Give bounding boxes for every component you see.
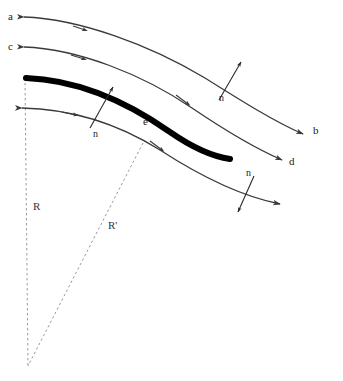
- radius-R-line: [25, 78, 28, 366]
- label-c: c: [8, 41, 13, 52]
- label-b: b: [313, 125, 319, 136]
- label-normal-left: n: [93, 129, 98, 139]
- streamline-a-b: [24, 17, 303, 134]
- label-a: a: [8, 11, 13, 22]
- label-normal-upper-right: n: [219, 93, 224, 103]
- diagram-svg: [0, 0, 343, 381]
- radius-lines-group: [25, 78, 143, 366]
- label-normal-lower-right: n: [246, 168, 251, 178]
- streamline-lower-mid-arrow: [62, 112, 76, 115]
- figure-canvas: a c b d e n n n R R': [0, 0, 343, 381]
- normal-vectors-group: [90, 62, 254, 212]
- radius-R-prime-line: [28, 143, 143, 366]
- shock-front-thick-curve: [26, 78, 230, 159]
- label-d: d: [289, 156, 295, 167]
- label-radius-R-prime: R': [108, 220, 117, 231]
- label-radius-R: R: [33, 201, 40, 212]
- label-e: e: [143, 116, 148, 127]
- streamline-a-b-path: [24, 17, 303, 134]
- normal-vector-lower-right: [238, 176, 254, 212]
